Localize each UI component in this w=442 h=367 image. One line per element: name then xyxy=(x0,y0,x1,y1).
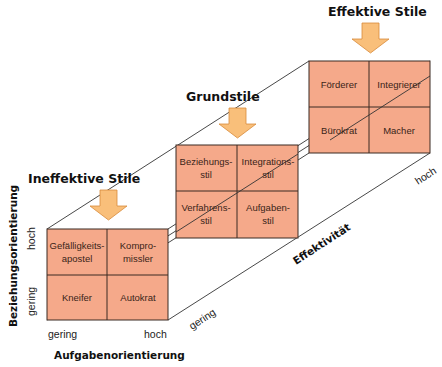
cell-buerokrat: Bürokrat xyxy=(321,125,357,136)
cell-integrierer: Integrierer xyxy=(377,79,420,90)
cell-autokrat: Autokrat xyxy=(120,292,156,303)
title-ineffective-styles: Ineffektive Stile xyxy=(28,171,140,186)
down-arrow-icon xyxy=(352,23,389,53)
title-effective-styles: Effektive Stile xyxy=(328,4,427,19)
cell-kneifer: Kneifer xyxy=(62,292,92,303)
x-axis-low-label: gering xyxy=(48,328,77,340)
y-axis-low-label: gering xyxy=(25,287,37,316)
z-axis-high-label: hoch xyxy=(413,164,439,187)
title-basic-styles: Grundstile xyxy=(186,89,260,104)
cell-foerderer: Förderer xyxy=(321,79,357,90)
basic-styles-box: Beziehungs-stil Integrations-stil Verfah… xyxy=(176,145,298,238)
y-axis-high-label: hoch xyxy=(25,227,37,250)
managerial-grid-3d-diagram: Gefälligkeits-apostel Kompro-missler Kne… xyxy=(0,0,442,367)
z-axis-low-label: gering xyxy=(187,306,218,332)
down-arrow-icon xyxy=(219,108,256,138)
cell-macher: Macher xyxy=(383,125,415,136)
y-axis-title: Beziehungsorientierung xyxy=(7,185,19,327)
x-axis-high-label: hoch xyxy=(144,328,167,340)
z-axis-title: Effektivität xyxy=(291,221,353,267)
ineffective-styles-box: Gefälligkeits-apostel Kompro-missler Kne… xyxy=(47,229,168,320)
effective-styles-box: Förderer Integrierer Bürokrat Macher xyxy=(309,61,430,153)
x-axis-title: Aufgabenorientierung xyxy=(54,349,185,361)
down-arrow-icon xyxy=(90,190,127,220)
